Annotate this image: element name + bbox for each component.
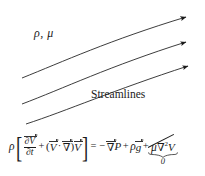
equals-sign: = [89,141,98,152]
nabla-convective: ∇ [63,141,71,153]
underbrace-group: 0 [150,152,176,166]
figure-canvas: ρ, μ Streamlines ρ [ ∂V ∂t + ( V · ∇ ) V… [0,0,205,176]
gravity-vector: g [136,141,142,153]
bracket-close: ] [82,135,88,158]
plus-operator-1: + [37,141,46,152]
partial-velocity-numerator: ∂V [24,136,37,147]
bracket-open: [ [15,135,21,158]
streamlines-diagram [0,0,205,126]
equation-row: ρ [ ∂V ∂t + ( V · ∇ ) V ] = − ∇ P + ρ g … [9,135,176,158]
viscous-velocity: V [168,140,175,152]
cancelled-value-zero: 0 [161,157,165,166]
streamlines-label: Streamlines [91,88,145,100]
plus-operator-2: + [121,141,130,152]
fluid-properties-label: ρ, μ [34,26,54,41]
navier-stokes-equation: ρ [ ∂V ∂t + ( V · ∇ ) V ] = − ∇ P + ρ g … [0,126,205,176]
viscous-term-cancelled: μ∇2V 0 [150,141,176,153]
partial-time-denominator: ∂t [25,148,34,158]
nabla-pressure: ∇ [107,141,115,153]
convective-velocity-vector: V [50,141,57,153]
density-coefficient: ρ [9,141,15,153]
convective-velocity-vector-2: V [74,141,81,153]
local-acceleration-fraction: ∂V ∂t [24,136,37,158]
